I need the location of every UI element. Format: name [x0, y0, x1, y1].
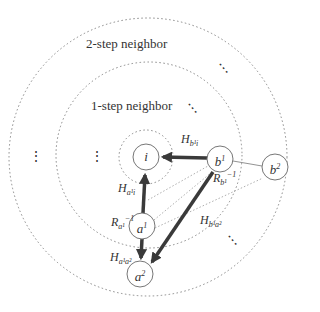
ellipsis-left-inner: ⋮ [90, 148, 104, 165]
label-H-b1-i: Hb¹i [181, 132, 198, 148]
label-H-b1-a2: Hb¹a² [200, 213, 221, 229]
edge-b1-to-i [163, 157, 207, 158]
label-R-b1-inv: Rb¹−1 [213, 170, 236, 187]
edge-a1-to-a2 [141, 239, 142, 258]
label-H-a1-a2: Ha¹a² [110, 250, 131, 266]
node-b2-label: b2 [262, 154, 288, 180]
b1-b2-link [233, 161, 262, 166]
node-b1-label: b1 [207, 146, 233, 172]
node-i-label: i [133, 144, 159, 170]
ellipsis-left-outer: ⋮ [29, 148, 43, 165]
one-step-label: 1-step neighbor [91, 98, 172, 114]
label-R-a1-inv: Ra¹−1 [111, 214, 134, 231]
two-step-label: 2-step neighbor [86, 36, 167, 52]
label-H-a1-i: Ha¹i [118, 181, 135, 197]
edge-a1-to-i [143, 175, 145, 213]
